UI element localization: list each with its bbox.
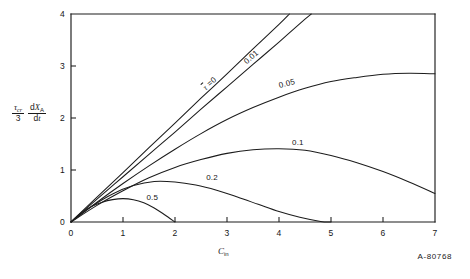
figure-panel: 01234567 01234 τ =00.010.050.10.20.5 τcr…	[0, 0, 470, 279]
x-tick-label: 4	[269, 228, 289, 238]
x-tick-label: 1	[113, 228, 133, 238]
curve-0-01	[71, 14, 311, 222]
y-axis-tau-numerator: τcr	[12, 103, 24, 114]
y-axis-title-fraction-tau: τcr 3	[12, 103, 24, 123]
y-tick-label: 3	[49, 61, 65, 71]
x-tick-label: 2	[165, 228, 185, 238]
curve-label-0-5: 0.5	[146, 193, 158, 202]
curve--0	[71, 14, 289, 222]
y-axis-tau-denominator: 3	[14, 114, 23, 124]
x-tick-label: 6	[373, 228, 393, 238]
y-tick-label: 4	[49, 9, 65, 19]
y-tick-label: 1	[49, 165, 65, 175]
curve-0-05	[71, 73, 435, 222]
x-axis-title: Cin	[218, 246, 229, 256]
y-axis-title-fraction-derivative: dXA dt	[28, 103, 46, 123]
curve-0-1	[71, 149, 435, 222]
figure-id-label: A-80768	[418, 252, 452, 261]
curve-label-0-2: 0.2	[206, 173, 218, 182]
y-axis-derivative-numerator: dXA	[28, 103, 46, 114]
axis-left-bottom	[71, 14, 435, 222]
y-axis-title: τcr 3 dXA dt	[12, 103, 46, 123]
x-tick-label: 0	[61, 228, 81, 238]
x-tick-label: 7	[425, 228, 445, 238]
x-tick-label: 3	[217, 228, 237, 238]
x-tick-label: 5	[321, 228, 341, 238]
curve-label-0-1: 0.1	[292, 138, 304, 147]
chart-curves	[71, 14, 435, 222]
chart-axes	[71, 14, 435, 222]
y-tick-label: 2	[49, 113, 65, 123]
y-axis-derivative-denominator: dt	[31, 114, 42, 124]
y-tick-label: 0	[49, 217, 65, 227]
